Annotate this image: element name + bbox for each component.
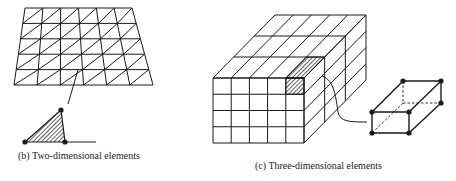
leader-curve-3d — [322, 76, 367, 122]
triangle-element — [22, 107, 96, 144]
node-icon — [369, 130, 374, 135]
node-icon — [400, 78, 405, 83]
node-icon — [62, 139, 67, 144]
node-icon — [406, 109, 411, 114]
leader-line-2d — [68, 70, 78, 104]
node-icon — [22, 139, 27, 144]
node-icon — [406, 130, 411, 135]
caption-two-dimensional: (b) Two-dimensional elements — [18, 150, 140, 161]
three-dimensional-mesh — [213, 15, 366, 143]
hexahedron-element — [369, 78, 443, 135]
node-icon — [369, 109, 374, 114]
node-icon — [438, 78, 443, 83]
node-icon — [58, 107, 63, 112]
two-dimensional-mesh — [14, 8, 153, 85]
caption-three-dimensional: (c) Three-dimensional elements — [255, 160, 382, 171]
node-icon — [438, 100, 443, 105]
